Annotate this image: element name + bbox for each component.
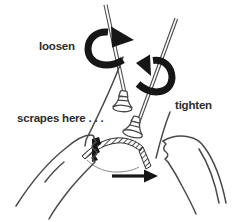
- spoke-nipple-lower: [122, 114, 147, 140]
- scrapes-here-label: scrapes here . . .: [17, 112, 104, 125]
- spoke-nipple-upper: [113, 90, 133, 112]
- loosen-label: loosen: [39, 40, 75, 53]
- spoke-left: [104, 5, 126, 94]
- tire-sidewall-right: [156, 112, 170, 158]
- brake-arm-right: [163, 136, 226, 214]
- tighten-label: tighten: [175, 99, 212, 112]
- loosen-rotation-arrow-icon: [88, 27, 134, 65]
- tighten-rotation-arrow-icon: [136, 55, 172, 92]
- wheel-truing-diagram: loosen scrapes here . . . tighten: [0, 0, 232, 222]
- brake-arm-left: [16, 135, 97, 219]
